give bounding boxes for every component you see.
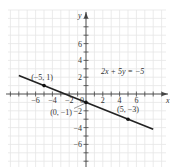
x-tick-label: 6 xyxy=(134,96,138,105)
point-label: (0, −1) xyxy=(50,108,72,117)
y-tick-label: −4 xyxy=(73,124,82,133)
x-axis-label: x xyxy=(165,96,170,105)
origin-label: 0 xyxy=(80,96,84,105)
x-tick-label: 2 xyxy=(101,96,105,105)
data-point xyxy=(126,117,130,121)
point-label: (5, −3) xyxy=(117,105,139,114)
y-tick-label: 2 xyxy=(78,73,82,82)
data-point xyxy=(42,84,46,88)
grid-lines xyxy=(8,10,166,167)
graph: −6−4−2246642−2−4−6 (−5, 1)(0, −1)(5, −3)… xyxy=(0,0,174,167)
y-tick-label: 6 xyxy=(78,40,82,49)
equation-label: 2x + 5y = −5 xyxy=(101,67,144,76)
x-tick-label: −6 xyxy=(31,96,40,105)
y-axis-label: y xyxy=(77,11,82,20)
x-tick-label: 4 xyxy=(118,96,122,105)
x-tick-label: −4 xyxy=(48,96,57,105)
point-label: (−5, 1) xyxy=(31,73,53,82)
y-tick-label: 4 xyxy=(78,56,82,65)
y-tick-label: −6 xyxy=(73,140,82,149)
